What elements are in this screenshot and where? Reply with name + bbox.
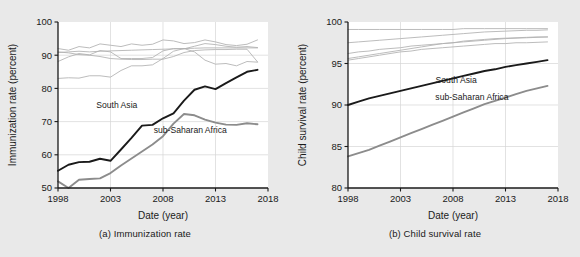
y-axis-tick-label: 80: [41, 83, 52, 94]
x-axis-tick-label: 2018: [257, 193, 278, 204]
y-axis-title: Child survival rate (percent): [297, 44, 308, 166]
y-axis-tick-label: 90: [331, 99, 342, 110]
immunization-rate-chart: 506070809010019982003200820132018Date (y…: [0, 0, 290, 257]
panel-immunization-rate: 506070809010019982003200820132018Date (y…: [0, 0, 290, 257]
x-axis-tick-label: 1998: [337, 193, 358, 204]
x-axis-title: Date (year): [428, 210, 478, 221]
series-annotation: sub-Saharan Africa: [154, 125, 227, 135]
x-axis-tick-label: 2008: [152, 193, 173, 204]
panel-a-caption: (a) Immunization rate: [0, 228, 290, 239]
figure-container: 506070809010019982003200820132018Date (y…: [0, 0, 580, 257]
series-annotation: South Asia: [96, 100, 137, 110]
x-axis-tick-label: 2003: [100, 193, 121, 204]
x-axis-tick-label: 2008: [442, 193, 463, 204]
x-axis-title: Date (year): [138, 210, 188, 221]
child-survival-rate-chart: 8085909510019982003200820132018Date (yea…: [290, 0, 580, 257]
y-axis-tick-label: 100: [326, 16, 342, 27]
x-axis-tick-label: 2003: [390, 193, 411, 204]
y-axis-tick-label: 85: [331, 141, 342, 152]
x-axis-tick-label: 1998: [47, 193, 68, 204]
y-axis-tick-label: 80: [331, 182, 342, 193]
y-axis-tick-label: 50: [41, 182, 52, 193]
series-annotation: sub-Saharan Africa: [435, 92, 508, 102]
x-axis-tick-label: 2018: [547, 193, 568, 204]
y-axis-tick-label: 60: [41, 149, 52, 160]
panel-b-caption: (b) Child survival rate: [290, 228, 580, 239]
y-axis-tick-label: 90: [41, 50, 52, 61]
x-axis-tick-label: 2013: [205, 193, 226, 204]
y-axis-tick-label: 100: [36, 16, 52, 27]
panel-child-survival-rate: 8085909510019982003200820132018Date (yea…: [290, 0, 580, 257]
y-axis-tick-label: 95: [331, 58, 342, 69]
y-axis-tick-label: 70: [41, 116, 52, 127]
x-axis-tick-label: 2013: [495, 193, 516, 204]
y-axis-title: Immunization rate (percent): [7, 44, 18, 166]
series-annotation: South Asia: [436, 75, 477, 85]
